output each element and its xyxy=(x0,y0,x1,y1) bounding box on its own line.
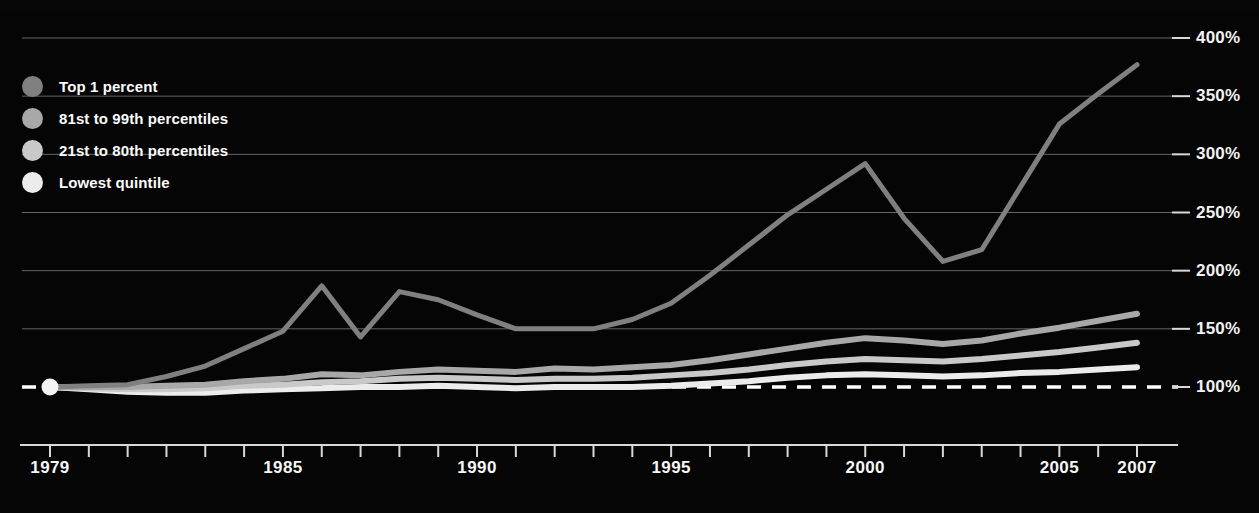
x-axis-tick-label: 1990 xyxy=(457,458,496,478)
legend-item-label: 81st to 99th percentiles xyxy=(59,110,228,127)
series-start-marker xyxy=(42,379,59,396)
legend-item[interactable]: Lowest quintile xyxy=(22,166,352,198)
y-axis-tick-label: 350% xyxy=(1196,86,1240,106)
y-axis-tick-label: 150% xyxy=(1196,319,1240,339)
legend-item[interactable]: 81st to 99th percentiles xyxy=(22,102,352,134)
x-axis-tick-label: 1995 xyxy=(651,458,690,478)
y-axis-tick-label: 400% xyxy=(1196,28,1240,48)
legend-swatch-circle-icon xyxy=(22,108,43,129)
legend-swatch-circle-icon xyxy=(22,140,43,161)
origin-marker-dot xyxy=(42,379,59,396)
y-axis-tick-label: 300% xyxy=(1196,144,1240,164)
legend-item-label: 21st to 80th percentiles xyxy=(59,142,228,159)
x-axis-tick-label: 1985 xyxy=(263,458,302,478)
chart-legend: Top 1 percent81st to 99th percentiles21s… xyxy=(22,70,352,198)
legend-item[interactable]: 21st to 80th percentiles xyxy=(22,134,352,166)
legend-item[interactable]: Top 1 percent xyxy=(22,70,352,102)
x-axis-tick-label: 2005 xyxy=(1040,458,1079,478)
y-axis-tick-label: 200% xyxy=(1196,261,1240,281)
x-axis-tick-label: 1979 xyxy=(30,458,69,478)
legend-item-label: Lowest quintile xyxy=(59,174,170,191)
legend-item-label: Top 1 percent xyxy=(59,78,158,95)
legend-swatch-circle-icon xyxy=(22,172,43,193)
x-axis-tick-label: 2007 xyxy=(1117,458,1156,478)
x-axis-tick-marks xyxy=(50,445,1137,457)
x-axis-tick-label: 2000 xyxy=(846,458,885,478)
y-axis-tick-label: 250% xyxy=(1196,203,1240,223)
chart-container: 400%350%300%250%200%150%100% 19791985199… xyxy=(0,0,1259,513)
y-axis-tick-marks xyxy=(1172,38,1190,387)
legend-swatch-circle-icon xyxy=(22,76,43,97)
y-axis-tick-label: 100% xyxy=(1196,377,1240,397)
